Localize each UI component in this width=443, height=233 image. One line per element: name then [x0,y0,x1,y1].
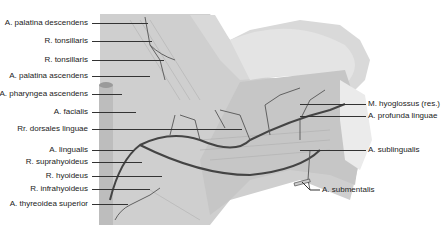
label-r-suprahyoideus: R. suprahyoideus [26,157,88,167]
label-a-thyreoidea-superior: A. thyreoidea superior [10,199,88,209]
label-a-facialis: A. facialis [54,107,88,117]
leader-line [300,104,366,105]
label-a-submentalis: A. submentalis [322,185,374,195]
leader-line [92,162,142,163]
leader-line [92,150,134,151]
label-r-infrahyoideus: R. infrahyoideus [30,184,88,194]
leader-line [92,60,164,61]
leader-line [92,41,152,42]
leader-line [92,94,122,95]
leader-line [300,150,366,151]
label-m-hyoglossus: M. hyoglossus (res.) [368,99,440,109]
label-a-palatina-ascendens: A. palatina ascendens [9,71,88,81]
leader-line [92,189,150,190]
label-a-pharyngea-ascendens: A. pharyngea ascendens [0,89,88,99]
leader-line [92,76,150,77]
label-rr-dorsales-linguae: Rr. dorsales linguae [17,124,88,134]
label-r-tonsillaris-2: R. tonsillaris [44,55,88,65]
leader-line [92,129,242,130]
label-a-lingualis: A. lingualis [49,145,88,155]
label-a-profunda-linguae: A. profunda linguae [368,111,437,121]
label-a-sublingualis: A. sublingualis [368,145,420,155]
leader-line [92,112,136,113]
label-r-tonsillaris-1: R. tonsillaris [44,36,88,46]
leader-line-submentalis [300,180,320,192]
leader-line [300,116,366,117]
leader-line [92,176,162,177]
label-a-palatina-descendens: A. palatina descendens [5,18,88,28]
leader-line [92,23,148,24]
label-r-hyoideus: R. hyoideus [46,171,88,181]
leader-line [92,204,128,205]
